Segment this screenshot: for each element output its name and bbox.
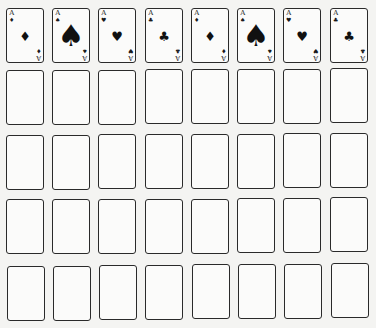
card-slot[interactable] [52, 135, 90, 190]
diamond-icon: ♦ [36, 48, 41, 54]
card-slot[interactable] [191, 69, 229, 124]
card-slot[interactable] [7, 266, 45, 321]
card-slot[interactable] [98, 134, 136, 189]
diamond-icon: ♦ [9, 17, 14, 23]
card-slot[interactable] [238, 264, 276, 319]
corner-index-top: A ♣ [148, 10, 153, 23]
corner-index-bottom: A ♥ [128, 48, 133, 61]
club-icon: ♣ [360, 48, 365, 54]
corner-index-bottom: A ♦ [36, 48, 41, 61]
card-slot[interactable] [191, 134, 229, 189]
card-slot[interactable] [331, 263, 369, 318]
card-ace-diamonds[interactable]: A ♦ ♦ A ♦ [6, 8, 44, 63]
diamond-icon: ♦ [19, 29, 31, 42]
corner-index-bottom: A ♣ [360, 48, 365, 61]
card-slot[interactable] [191, 199, 229, 254]
card-slot[interactable] [330, 133, 368, 188]
card-slot[interactable] [237, 69, 275, 124]
card-slot[interactable] [52, 70, 90, 125]
corner-index-bottom: A ♣ [175, 48, 180, 61]
card-ace-hearts[interactable]: A ♥ ♥ A ♥ [98, 8, 136, 63]
corner-index-bottom: A ♠ [82, 48, 87, 61]
diamond-icon: ♦ [194, 17, 199, 23]
card-ace-hearts[interactable]: A ♥ ♥ A ♥ [283, 8, 321, 63]
rank-label: A [128, 54, 133, 61]
corner-index-bottom: A ♠ [267, 48, 272, 61]
spade-icon: ♠ [243, 21, 270, 51]
heart-icon: ♥ [128, 48, 133, 54]
diamond-icon: ♦ [221, 48, 226, 54]
corner-index-top: A ♥ [286, 10, 291, 23]
card-slot[interactable] [6, 199, 44, 254]
card-slot[interactable] [98, 70, 136, 125]
card-slot[interactable] [98, 199, 136, 254]
card-ace-clubs[interactable]: A ♣ ♣ A ♣ [330, 8, 368, 63]
club-icon: ♣ [343, 29, 355, 42]
card-ace-clubs[interactable]: A ♣ ♣ A ♣ [145, 8, 183, 63]
card-slot[interactable] [6, 135, 44, 190]
club-icon: ♣ [175, 48, 180, 54]
heart-icon: ♥ [313, 48, 318, 54]
card-board: A ♦ ♦ A ♦ A ♠ ♠ A ♠ A ♥ ♥ A ♥ A [0, 0, 376, 328]
rank-label: A [221, 54, 226, 61]
card-slot[interactable] [283, 198, 321, 253]
club-icon: ♣ [148, 17, 153, 23]
club-icon: ♣ [333, 17, 338, 23]
card-slot[interactable] [52, 199, 90, 254]
card-ace-spades[interactable]: A ♠ ♠ A ♠ [52, 8, 90, 63]
rank-label: A [360, 54, 365, 61]
heart-icon: ♥ [296, 29, 308, 42]
heart-icon: ♥ [286, 17, 291, 23]
spade-icon: ♠ [58, 21, 85, 51]
corner-index-bottom: A ♦ [221, 48, 226, 61]
heart-icon: ♥ [101, 17, 106, 23]
rank-label: A [82, 54, 87, 61]
spade-icon: ♠ [82, 48, 87, 54]
card-slot[interactable] [6, 70, 44, 125]
rank-label: A [36, 54, 41, 61]
heart-icon: ♥ [111, 29, 123, 42]
club-icon: ♣ [158, 29, 170, 42]
corner-index-top: A ♣ [333, 10, 338, 23]
card-slot[interactable] [237, 134, 275, 189]
corner-index-top: A ♦ [9, 10, 14, 23]
rank-label: A [313, 54, 318, 61]
card-slot[interactable] [283, 133, 321, 188]
card-slot[interactable] [283, 69, 321, 124]
diamond-icon: ♦ [204, 29, 216, 42]
card-ace-diamonds[interactable]: A ♦ ♦ A ♦ [191, 8, 229, 63]
card-ace-spades[interactable]: A ♠ ♠ A ♠ [237, 8, 275, 63]
card-slot[interactable] [284, 264, 322, 319]
card-slot[interactable] [330, 197, 368, 252]
card-slot[interactable] [53, 266, 91, 321]
rank-label: A [175, 54, 180, 61]
corner-index-bottom: A ♥ [313, 48, 318, 61]
card-slot[interactable] [192, 264, 230, 319]
card-slot[interactable] [330, 68, 368, 123]
card-slot[interactable] [237, 198, 275, 253]
card-slot[interactable] [145, 134, 183, 189]
card-slot[interactable] [145, 69, 183, 124]
spade-icon: ♠ [267, 48, 272, 54]
corner-index-top: A ♥ [101, 10, 106, 23]
rank-label: A [267, 54, 272, 61]
card-slot[interactable] [145, 265, 183, 320]
card-slot[interactable] [145, 199, 183, 254]
corner-index-top: A ♦ [194, 10, 199, 23]
card-slot[interactable] [99, 265, 137, 320]
